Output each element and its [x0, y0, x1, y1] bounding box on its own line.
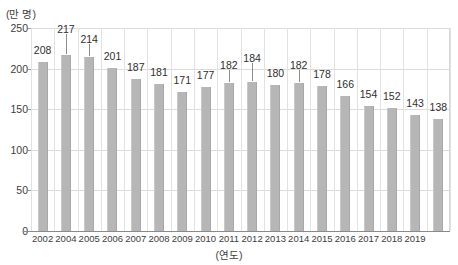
bar[interactable] [177, 92, 187, 231]
x-axis-tick-label: 2016 [332, 233, 358, 245]
x-axis-tick-label: 2018 [379, 233, 405, 245]
bar[interactable] [410, 115, 420, 231]
x-axis-unit-label: (연도) [0, 247, 458, 262]
y-axis-tick-label: 200 [2, 63, 28, 74]
bar[interactable] [224, 83, 234, 231]
bar[interactable] [270, 85, 280, 231]
gridline-vertical [357, 28, 358, 231]
x-axis-tick-label: 2004 [53, 233, 79, 245]
bar-value-label: 217 [52, 24, 80, 35]
bar[interactable] [38, 62, 48, 231]
x-axis-tick-label: 2017 [356, 233, 382, 245]
y-axis-ticks: 050100150200250 [0, 28, 28, 231]
x-axis-tick-label: 2005 [76, 233, 102, 245]
y-axis-tick-label: 100 [2, 145, 28, 156]
bar-value-label: 208 [29, 45, 57, 56]
bar[interactable] [433, 119, 443, 231]
x-axis-tick-label: 2019 [402, 233, 428, 245]
bar[interactable] [340, 96, 350, 231]
bar-value-label: 214 [75, 34, 103, 45]
bar-value-label: 184 [238, 53, 266, 64]
gridline-vertical [450, 28, 451, 231]
x-axis-tick-label: 2015 [309, 233, 335, 245]
bar[interactable] [364, 106, 374, 231]
bar-value-label: 138 [424, 102, 452, 113]
gridline-vertical [31, 28, 32, 231]
y-axis-tick-label: 50 [2, 185, 28, 196]
bar[interactable] [294, 83, 304, 231]
bar-value-label: 201 [98, 51, 126, 62]
x-axis-tick-label: 2002 [30, 233, 56, 245]
bar[interactable] [387, 108, 397, 231]
gridline-vertical [217, 28, 218, 231]
y-axis-tick-label: 250 [2, 23, 28, 34]
x-axis-line [24, 231, 450, 232]
bar[interactable] [107, 68, 117, 231]
value-leader-line [89, 44, 90, 56]
gridline-vertical [380, 28, 381, 231]
x-axis-tick-label: 2012 [239, 233, 265, 245]
gridline-vertical [147, 28, 148, 231]
bar[interactable] [131, 79, 141, 231]
gridline-vertical [171, 28, 172, 231]
value-leader-line [229, 70, 230, 82]
x-axis-tick-label: 2010 [193, 233, 219, 245]
gridline-vertical [287, 28, 288, 231]
gridline-vertical [334, 28, 335, 231]
value-leader-line [66, 34, 67, 54]
gridline-vertical [54, 28, 55, 231]
value-leader-line [299, 70, 300, 82]
y-axis-tick-label: 150 [2, 104, 28, 115]
bar[interactable] [317, 86, 327, 231]
bar[interactable] [61, 55, 71, 231]
bar[interactable] [201, 87, 211, 231]
gridline-vertical [427, 28, 428, 231]
x-axis-tick-label: 2007 [123, 233, 149, 245]
gridline-vertical [310, 28, 311, 231]
bar[interactable] [154, 84, 164, 231]
x-axis-tick-label: 2013 [262, 233, 288, 245]
bar-chart: (만 명) 050100150200250 208217214201187181… [0, 0, 458, 265]
x-axis-tick-label: 2006 [99, 233, 125, 245]
x-axis-tick-label: 2014 [286, 233, 312, 245]
bar-value-label: 177 [192, 70, 220, 81]
value-leader-line [252, 63, 253, 81]
x-axis-tick-label: 2009 [169, 233, 195, 245]
gridline-vertical [403, 28, 404, 231]
gridline-vertical [78, 28, 79, 231]
bar[interactable] [247, 82, 257, 231]
gridline-vertical [194, 28, 195, 231]
x-axis-tick-label: 2008 [146, 233, 172, 245]
y-axis-unit-label: (만 명) [6, 6, 36, 21]
bar[interactable] [84, 57, 94, 231]
x-axis-tick-label: 2011 [216, 233, 242, 245]
